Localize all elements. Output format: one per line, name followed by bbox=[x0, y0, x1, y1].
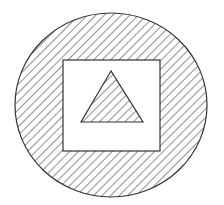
nested-shapes-diagram bbox=[0, 0, 224, 205]
